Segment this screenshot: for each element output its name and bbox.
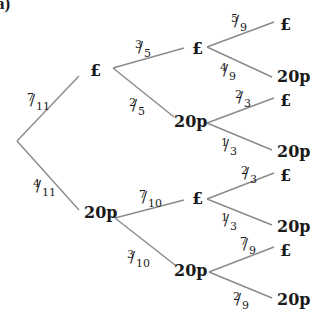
node-1-pound: £ (90, 63, 101, 79)
node-3-c: £ (280, 93, 291, 109)
node-3-a: £ (280, 17, 291, 33)
branch-3-g (209, 247, 274, 272)
branch-1-20p (17, 141, 79, 210)
node-1-20p: 20p (84, 205, 117, 221)
node-3-e: £ (280, 168, 291, 184)
node-2-pound-pound: £ (192, 41, 203, 57)
node-3-h: 20p (277, 292, 310, 308)
node-3-b: 20p (277, 69, 310, 85)
node-3-d: 20p (277, 144, 310, 160)
node-3-f: 20p (277, 219, 310, 235)
node-2-20p-pound: £ (192, 191, 203, 207)
branch-3-d (207, 123, 272, 150)
node-3-g: £ (280, 243, 291, 259)
branch-3-b (207, 47, 272, 77)
branch-3-f (207, 199, 272, 225)
tree-branches (0, 0, 310, 319)
node-2-20p-20p: 20p (174, 263, 207, 279)
node-2-pound-20p: 20p (174, 114, 207, 130)
